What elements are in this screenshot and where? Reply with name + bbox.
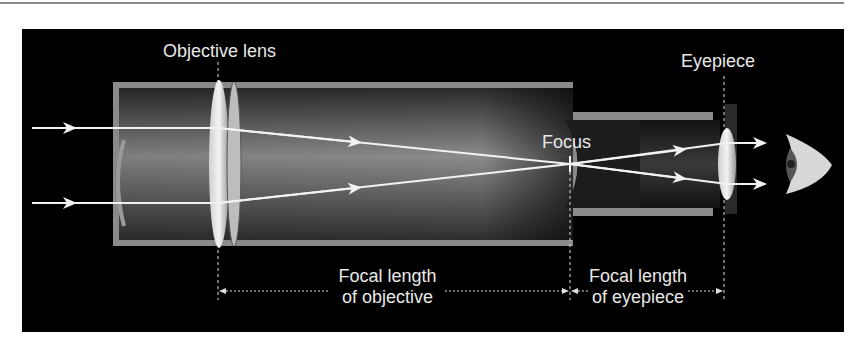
focus-label: Focus — [542, 132, 591, 153]
objective-lens-label: Objective lens — [163, 41, 276, 62]
focal-length-objective-label: Focal length of objective — [330, 266, 445, 308]
focal-length-eyepiece-label: Focal length of eyepiece — [588, 266, 688, 308]
eyepiece-label: Eyepiece — [681, 51, 755, 72]
main-tube — [113, 82, 573, 246]
eye-icon — [786, 134, 832, 194]
eyepiece-tube — [565, 104, 737, 216]
